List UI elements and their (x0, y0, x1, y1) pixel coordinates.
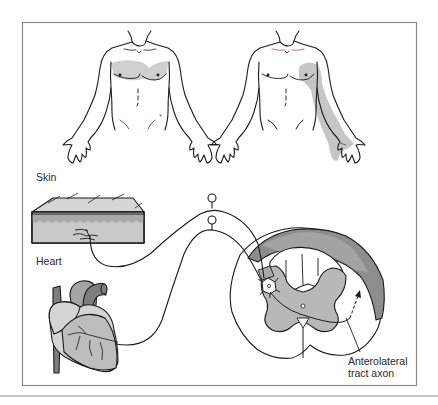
dorsal-root-ganglion-cell-upper (208, 194, 216, 202)
skin-label: Skin (36, 171, 56, 183)
diagram-canvas (0, 0, 438, 405)
dorsal-root-ganglion-cell-lower (208, 216, 216, 224)
skin-section (32, 193, 144, 243)
anterolateral-tract-label-line1: Anterolateral (348, 355, 408, 367)
heart-label: Heart (36, 255, 62, 267)
anterolateral-tract-label: Anterolateral tract axon (348, 355, 408, 379)
referred-pain-diagram: Skin Heart Anterolateral tract axon (0, 0, 438, 405)
spinal-cord-section (230, 228, 384, 359)
anterolateral-tract-label-line2: tract axon (348, 367, 408, 379)
